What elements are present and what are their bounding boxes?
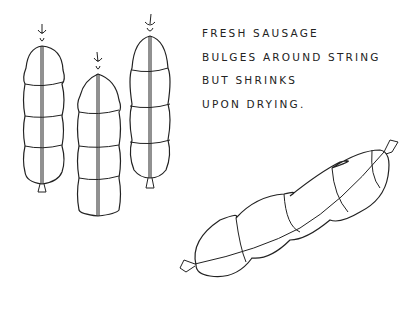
dried-sausage: [180, 140, 398, 277]
caption-line-3: BUT SHRINKS: [202, 69, 381, 93]
hanging-sausage-left: [24, 24, 65, 192]
caption-text: FRESH SAUSAGE BULGES AROUND STRING BUT S…: [202, 22, 381, 116]
hanging-sausage-right: [130, 14, 170, 188]
illustration-canvas: FRESH SAUSAGE BULGES AROUND STRING BUT S…: [0, 0, 414, 314]
hanging-sausage-middle: [78, 52, 121, 216]
caption-line-4: UPON DRYING.: [202, 93, 381, 117]
caption-line-1: FRESH SAUSAGE: [202, 22, 381, 46]
caption-line-2: BULGES AROUND STRING: [202, 46, 381, 70]
